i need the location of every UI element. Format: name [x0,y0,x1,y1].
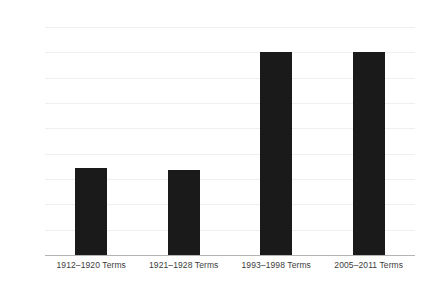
bar [75,168,107,255]
x-axis-category-label: 2005–2011 Terms [334,261,403,270]
bar-chart: 0.002.004.006.008.0010.0012.0014.0016.00… [0,0,428,284]
bar [168,170,200,256]
bar [353,52,385,255]
bars-group [45,27,415,255]
axis-baseline [45,255,415,256]
bar [260,52,292,255]
x-axis-category-label: 1993–1998 Terms [242,261,311,270]
x-axis-category-label: 1921–1928 Terms [149,261,218,270]
x-axis-category-label: 1912–1920 Terms [57,261,126,270]
